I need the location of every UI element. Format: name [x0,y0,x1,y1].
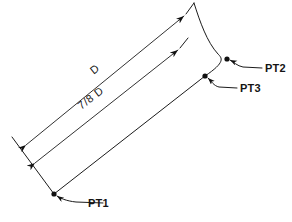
dimension-d-label: D [87,62,101,77]
dimension-seven-eighths-d-line [35,50,178,163]
callout-pt2[interactable]: PT2 [224,56,285,74]
pt1-label: PT1 [88,197,109,209]
inner-extension-line [180,38,188,48]
diagram-canvas: D 7/8 D PT1 PT2 PT3 [0,0,292,222]
lower-edge-line [54,76,205,194]
top-extension-line [186,3,194,14]
pt2-node-dot [224,56,229,61]
pt2-label: PT2 [265,62,286,74]
pt3-leader-line [208,78,237,88]
callout-pt3[interactable]: PT3 [202,73,260,94]
dimension-d-group: D [26,16,184,145]
left-extension-line [12,137,54,194]
dimension-seven-eighths-d-group: 7/8 D [35,50,178,163]
pt2-leader-line [230,60,262,68]
callout-pt1[interactable]: PT1 [51,191,108,209]
pt3-node-dot [202,73,207,78]
pt1-node-dot [51,191,56,196]
technical-drawing: D 7/8 D PT1 PT2 PT3 [0,0,292,222]
outer-curve-edge [194,3,221,76]
dimension-d-line [26,16,184,145]
pt3-label: PT3 [240,82,261,94]
dimension-seven-eighths-d-label: 7/8 D [75,84,106,111]
